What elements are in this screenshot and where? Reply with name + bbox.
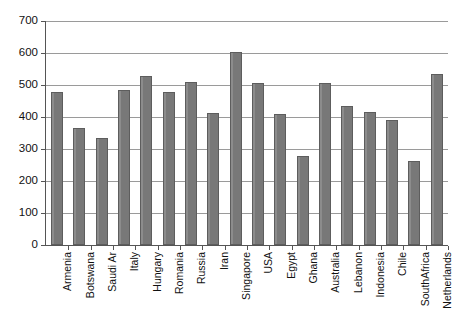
x-axis-category-label: Singapore	[240, 252, 252, 319]
x-axis-tick	[68, 246, 69, 250]
x-axis-tick	[403, 246, 404, 250]
x-axis-tick	[247, 246, 248, 250]
y-axis-tick-label: 500	[0, 79, 38, 90]
bar	[297, 156, 309, 245]
bar	[431, 74, 443, 245]
x-axis-category-label: Ghana	[307, 252, 319, 319]
bar-slot	[314, 21, 336, 245]
bar	[319, 83, 331, 245]
y-axis-tick-label: 300	[0, 143, 38, 154]
x-axis-category-label: Lebanon	[352, 252, 364, 319]
bar-slot	[68, 21, 90, 245]
bar-slot	[202, 21, 224, 245]
y-axis-tick-label: 700	[0, 15, 38, 26]
y-axis-tick-label: 0	[0, 239, 38, 250]
x-axis-category-label: Egypt	[285, 252, 297, 319]
x-axis-tick	[91, 246, 92, 250]
x-axis-tick	[269, 246, 270, 250]
x-axis-category-label: Italy	[128, 252, 140, 319]
x-axis-category-label: Australia	[329, 252, 341, 319]
bar	[364, 112, 376, 245]
bar-slot	[381, 21, 403, 245]
x-axis-category-label: Indonesia	[374, 252, 386, 319]
bar	[140, 76, 152, 245]
x-axis-category-label: Romania	[173, 252, 185, 319]
x-axis-tick	[202, 246, 203, 250]
bar	[163, 92, 175, 245]
y-axis-tick-label: 400	[0, 111, 38, 122]
x-axis-category-label: Saudi Ar	[106, 252, 118, 319]
plot-area	[46, 21, 448, 245]
x-axis-category-label: Russia	[195, 252, 207, 319]
bar-slot	[225, 21, 247, 245]
bar-slot	[91, 21, 113, 245]
x-axis-tick	[336, 246, 337, 250]
bar-slot	[269, 21, 291, 245]
y-axis-tick-label: 600	[0, 47, 38, 58]
bar	[341, 106, 353, 245]
bar	[252, 83, 264, 245]
x-axis-tick	[135, 246, 136, 250]
x-axis-tick	[426, 246, 427, 250]
x-axis-category-label: Botswana	[84, 252, 96, 319]
bar	[274, 114, 286, 245]
y-axis-tick-label: 100	[0, 207, 38, 218]
bar-slot	[113, 21, 135, 245]
x-axis-tick	[314, 246, 315, 250]
bar	[408, 161, 420, 245]
x-axis-tick	[381, 246, 382, 250]
x-axis-category-label: Iran	[218, 252, 230, 319]
x-axis-tick	[359, 246, 360, 250]
x-axis-tick	[158, 246, 159, 250]
bar	[51, 92, 63, 245]
bar-slot	[359, 21, 381, 245]
x-axis-category-label: Hungary	[151, 252, 163, 319]
y-axis-tick-label: 200	[0, 175, 38, 186]
bar-slot	[426, 21, 448, 245]
bar-chart: 0100200300400500600700 ArmeniaBotswanaSa…	[0, 0, 457, 319]
bar-slot	[180, 21, 202, 245]
bar-slot	[292, 21, 314, 245]
x-axis-category-label: SouthAfrica	[419, 252, 431, 319]
x-axis-category-label: Armenia	[61, 252, 73, 319]
bar-slot	[247, 21, 269, 245]
bar	[185, 82, 197, 245]
x-axis-category-label: Chile	[396, 252, 408, 319]
x-axis-tick	[113, 246, 114, 250]
x-axis-tick	[180, 246, 181, 250]
bar	[118, 90, 130, 245]
bar	[96, 138, 108, 245]
bar-slot	[46, 21, 68, 245]
bar-slot	[336, 21, 358, 245]
bar	[207, 113, 219, 245]
x-axis-category-label: Netherlands	[441, 252, 453, 319]
bar-slot	[158, 21, 180, 245]
bar	[230, 52, 242, 245]
x-axis-tick	[292, 246, 293, 250]
x-axis-category-label: USA	[262, 252, 274, 319]
x-axis-tick	[448, 246, 449, 250]
bar-slot	[135, 21, 157, 245]
bar-slot	[403, 21, 425, 245]
bar	[386, 120, 398, 245]
bar	[73, 128, 85, 245]
x-axis-tick	[225, 246, 226, 250]
